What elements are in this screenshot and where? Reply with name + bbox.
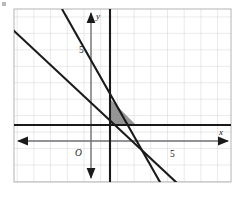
- y-axis-tick-label-5: 5: [79, 46, 84, 56]
- y-axis-label: y: [96, 12, 100, 21]
- grid-background: [14, 9, 231, 182]
- coordinate-plane-svg: [0, 0, 244, 199]
- graph-figure: y x 5 5 O: [0, 0, 244, 199]
- x-axis-tick-label-5: 5: [170, 150, 175, 160]
- x-axis-label: x: [219, 128, 223, 137]
- origin-label: O: [75, 149, 82, 159]
